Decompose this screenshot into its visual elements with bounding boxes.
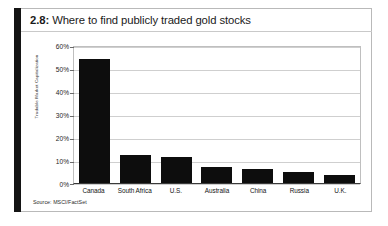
y-axis-tick-mark — [70, 184, 74, 185]
bar-australia — [201, 167, 232, 183]
x-axis-tick-label: U.S. — [155, 187, 196, 194]
y-axis-tick-label: 40% — [56, 89, 69, 96]
figure-panel: 2.8: Where to find publicly traded gold … — [14, 8, 372, 212]
x-axis-tick-label: Australia — [196, 187, 237, 194]
source-note: Source: MSCI/FactSet — [33, 199, 87, 205]
y-axis-tick-label: 30% — [56, 112, 69, 119]
figure-body: 2.8: Where to find publicly traded gold … — [21, 8, 372, 212]
x-axis-tick-labels: CanadaSouth AfricaU.S.AustraliaChinaRuss… — [73, 187, 361, 201]
chart-plot-area — [73, 46, 361, 184]
page-title: 2.8: Where to find publicly traded gold … — [21, 14, 251, 26]
bar-china — [242, 169, 273, 183]
bar-canada — [79, 59, 110, 183]
gridline — [74, 184, 360, 185]
x-axis-tick-label: China — [238, 187, 279, 194]
x-axis-tick-label: Russia — [279, 187, 320, 194]
bar-south-africa — [120, 155, 151, 183]
figure-number: 2.8: — [30, 14, 49, 26]
y-axis-tick-label: 10% — [56, 158, 69, 165]
x-axis-tick-label: South Africa — [114, 187, 155, 194]
y-axis-tick-labels: 0%10%20%30%40%50%60% — [43, 46, 69, 184]
y-axis-tick-label: 20% — [56, 135, 69, 142]
x-axis-tick-label: U.K. — [320, 187, 361, 194]
figure-title-bar: 2.8: Where to find publicly traded gold … — [21, 9, 372, 32]
x-axis-tick-label: Canada — [73, 187, 114, 194]
figure-title-label: Where to find publicly traded gold stock… — [52, 14, 251, 26]
y-axis-tick-label: 0% — [59, 181, 69, 188]
bar-russia — [283, 172, 314, 184]
chart-plot-wrapper: Tradable Market Capitalization 0%10%20%3… — [21, 32, 372, 213]
y-axis-tick-label: 50% — [56, 66, 69, 73]
y-axis-title: Tradable Market Capitalization — [34, 42, 39, 132]
bar-u-s — [161, 157, 192, 183]
chart-bars — [74, 47, 360, 183]
bar-u-k — [324, 175, 355, 183]
figure-accent-spine — [14, 8, 21, 212]
y-axis-tick-label: 60% — [56, 43, 69, 50]
